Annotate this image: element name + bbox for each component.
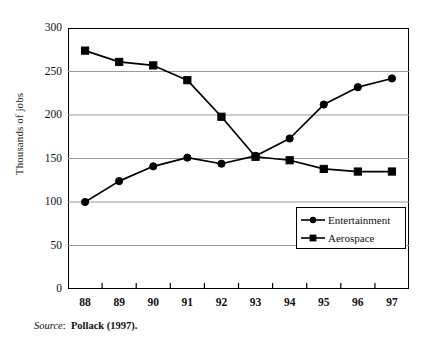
x-tick-label: 90	[138, 296, 168, 308]
chart-figure: Thousands of jobs 050100150200250300 888…	[0, 0, 429, 346]
data-point	[320, 165, 327, 172]
data-series-layer	[81, 47, 395, 206]
x-tick-label: 95	[309, 296, 339, 308]
data-point	[184, 154, 191, 161]
x-axis-tick-marks	[102, 283, 375, 289]
legend-item-aerospace: Aerospace	[300, 229, 405, 247]
y-tick-label: 50	[28, 240, 62, 251]
legend-label-entertainment: Entertainment	[326, 214, 390, 226]
series-line	[85, 78, 392, 202]
chart-legend: Entertainment Aerospace	[296, 207, 406, 249]
legend-marker-circle-icon	[300, 213, 326, 227]
series-aerospace	[81, 47, 395, 175]
data-point	[150, 62, 157, 69]
x-tick-label: 93	[241, 296, 271, 308]
x-tick-label: 89	[104, 296, 134, 308]
data-point	[354, 168, 361, 175]
data-point	[184, 77, 191, 84]
data-point	[150, 163, 157, 170]
series-entertainment	[81, 75, 395, 206]
x-tick-label: 91	[172, 296, 202, 308]
data-point	[286, 135, 293, 142]
data-point	[218, 113, 225, 120]
x-tick-label: 94	[275, 296, 305, 308]
data-point	[252, 153, 259, 160]
legend-label-aerospace: Aerospace	[326, 232, 374, 244]
x-tick-label: 92	[206, 296, 236, 308]
y-tick-label: 300	[28, 22, 62, 33]
data-point	[388, 75, 395, 82]
y-tick-label: 200	[28, 109, 62, 120]
data-point	[388, 168, 395, 175]
y-tick-label: 0	[28, 283, 62, 294]
y-tick-label: 250	[28, 66, 62, 77]
x-tick-label: 96	[343, 296, 373, 308]
data-point	[286, 157, 293, 164]
x-tick-label: 88	[70, 296, 100, 308]
source-label: Source	[34, 320, 63, 331]
data-point	[218, 160, 225, 167]
y-tick-label: 100	[28, 196, 62, 207]
chart-plot-svg	[68, 28, 409, 289]
data-point	[116, 178, 123, 185]
data-point	[320, 101, 327, 108]
series-line	[85, 51, 392, 172]
y-tick-label: 150	[28, 153, 62, 164]
y-axis-title: Thousands of jobs	[13, 79, 25, 189]
legend-item-entertainment: Entertainment	[300, 211, 405, 229]
data-point	[354, 84, 361, 91]
source-text: Pollack (1997).	[71, 320, 138, 331]
data-point	[81, 47, 88, 54]
data-point	[116, 58, 123, 65]
source-separator: :	[63, 320, 66, 331]
x-tick-label: 97	[377, 296, 407, 308]
source-note: Source: Pollack (1997).	[34, 320, 137, 331]
data-point	[81, 198, 88, 205]
legend-marker-square-icon	[300, 231, 326, 245]
